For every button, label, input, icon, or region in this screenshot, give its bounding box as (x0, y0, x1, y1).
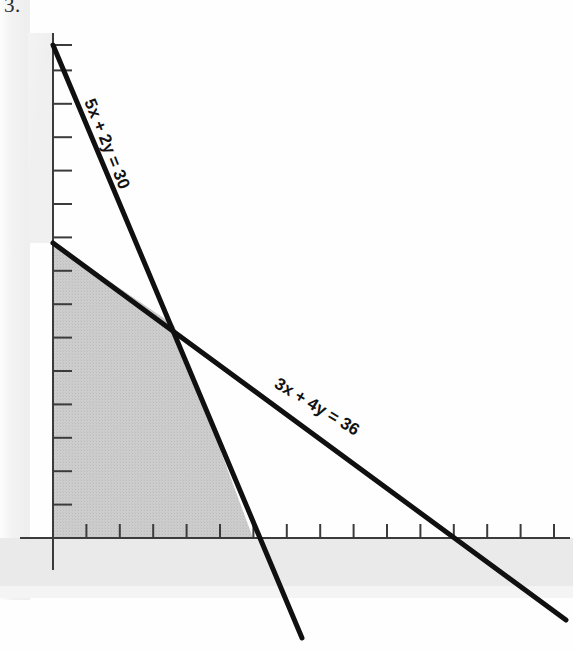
figure-canvas: 3. (0, 0, 573, 651)
graph-svg (0, 0, 573, 651)
